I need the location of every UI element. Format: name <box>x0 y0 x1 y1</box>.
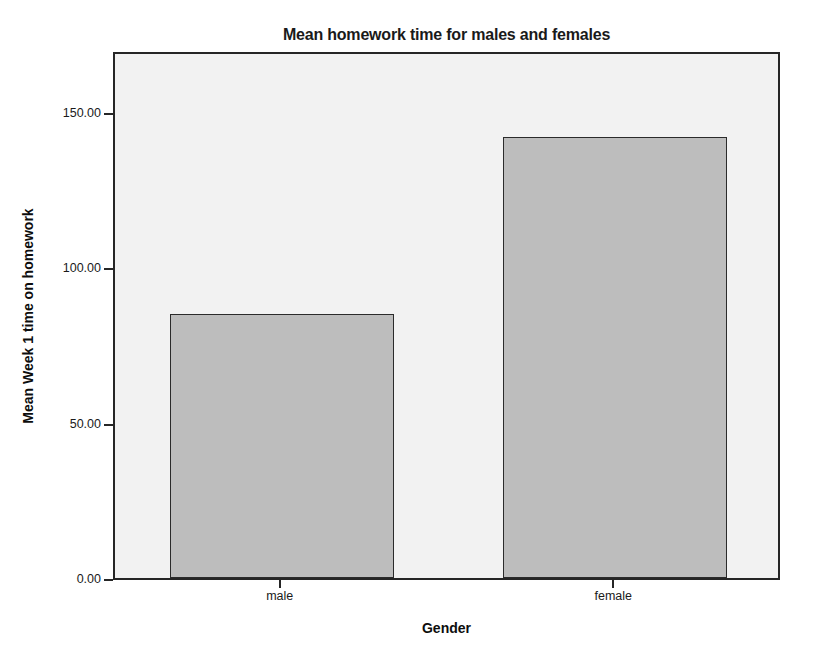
x-tick-mark <box>612 580 614 588</box>
x-tick-label: male <box>113 589 447 603</box>
y-axis-title-label: Mean Week 1 time on homework <box>20 208 36 423</box>
y-tick-label: 100.00 <box>63 260 101 276</box>
chart-title: Mean homework time for males and females <box>113 26 780 44</box>
x-tick-label: female <box>447 589 781 603</box>
y-tick-mark <box>104 424 113 426</box>
x-axis-title: Gender <box>113 620 780 636</box>
bar-female <box>503 137 727 578</box>
bar-male <box>170 314 394 578</box>
y-axis-title: Mean Week 1 time on homework <box>14 52 42 580</box>
y-tick-mark <box>104 113 113 115</box>
y-tick-label: 150.00 <box>63 105 101 121</box>
plot-inner <box>115 54 778 578</box>
x-tick-mark <box>279 580 281 588</box>
y-tick-mark <box>104 579 113 581</box>
y-tick-label: 0.00 <box>77 571 101 587</box>
y-tick-mark <box>104 268 113 270</box>
plot-area <box>113 52 780 580</box>
bar-chart: Mean homework time for males and females… <box>0 0 821 654</box>
y-tick-label: 50.00 <box>70 416 101 432</box>
